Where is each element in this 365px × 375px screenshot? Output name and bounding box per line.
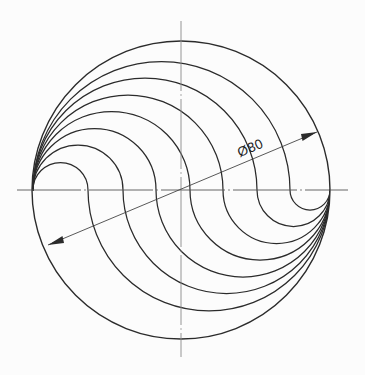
dimension-arrow-end xyxy=(301,132,317,141)
spiral-curve-3 xyxy=(33,129,330,278)
spiral-curve-6 xyxy=(33,78,330,227)
spiral-curve-family xyxy=(33,62,330,311)
diameter-dimension-label: Ø80 xyxy=(235,136,265,160)
spiral-curve-5 xyxy=(33,95,330,244)
spiral-curve-4 xyxy=(33,112,330,261)
drawing-svg: Ø80 xyxy=(0,0,365,375)
technical-drawing-canvas: Ø80 xyxy=(0,0,365,375)
spiral-curve-1 xyxy=(33,163,330,311)
spiral-curve-2 xyxy=(33,145,330,294)
dimension-arrow-start xyxy=(48,236,64,245)
